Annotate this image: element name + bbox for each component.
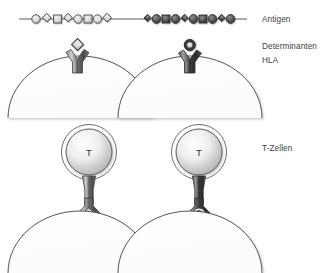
antigen-unit-square bbox=[54, 15, 62, 23]
determinant-circle-icon bbox=[187, 42, 193, 48]
antigen-unit-diamond bbox=[103, 13, 112, 22]
antigen-unit-circle bbox=[32, 15, 40, 23]
antigen-unit-circle bbox=[208, 15, 217, 24]
antigen-unit-diamond bbox=[181, 14, 188, 21]
label-tzellen: T-Zellen bbox=[262, 143, 292, 154]
tcell-label-right: T bbox=[196, 147, 202, 158]
antigen-unit-diamond bbox=[42, 13, 51, 22]
immunology-diagram: T T bbox=[0, 0, 323, 273]
antigen-shapes-right bbox=[144, 14, 235, 23]
binding-complex-right bbox=[118, 198, 262, 273]
determinant-right bbox=[184, 39, 195, 50]
antigen-unit-square bbox=[84, 15, 92, 23]
tcell-right: T bbox=[172, 125, 227, 205]
tcell-left: T bbox=[62, 125, 117, 205]
antigen-unit-circle bbox=[74, 15, 82, 23]
tcell-label-left: T bbox=[86, 147, 92, 158]
determinant-diamond-icon bbox=[72, 39, 84, 51]
tcell-row: T T bbox=[62, 125, 227, 205]
apc-row bbox=[8, 39, 262, 118]
antigen-unit-circle bbox=[93, 15, 101, 23]
antigen-unit-square bbox=[162, 15, 170, 23]
antigen-unit-square bbox=[199, 15, 207, 23]
antigen-chain-left bbox=[19, 13, 124, 23]
determinant-left bbox=[72, 39, 84, 51]
antigen-unit-circle bbox=[189, 15, 198, 24]
antigen-chain-right bbox=[124, 14, 247, 23]
label-antigen: Antigen bbox=[262, 14, 290, 25]
label-hla: HLA bbox=[262, 55, 278, 66]
antigen-unit-diamond bbox=[144, 14, 151, 21]
target-cell-membrane-right bbox=[118, 211, 262, 273]
antigen-shapes-left bbox=[32, 13, 112, 23]
antigen-row bbox=[19, 13, 247, 23]
antigen-unit-diamond bbox=[64, 13, 73, 22]
antigen-unit-diamond bbox=[218, 14, 225, 21]
label-determinanten: Determinanten bbox=[262, 41, 317, 52]
apc-cell-right bbox=[118, 39, 262, 118]
antigen-unit-circle bbox=[226, 15, 235, 24]
binding-row bbox=[8, 198, 262, 273]
antigen-unit-circle bbox=[171, 15, 180, 24]
antigen-unit-circle bbox=[152, 15, 161, 24]
